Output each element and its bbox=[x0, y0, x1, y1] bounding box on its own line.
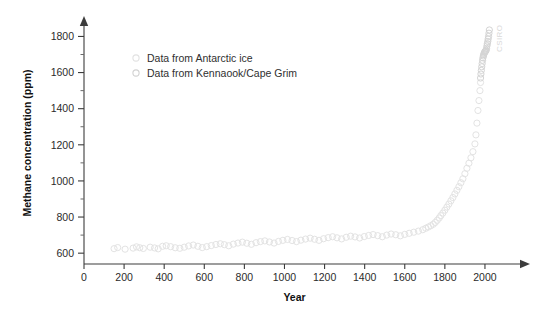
data-point bbox=[163, 243, 169, 249]
data-point bbox=[477, 88, 483, 94]
x-axis-title: Year bbox=[283, 291, 305, 303]
x-tick-label-1200: 1200 bbox=[313, 271, 337, 283]
data-point bbox=[329, 234, 335, 240]
x-tick-label-2000: 2000 bbox=[473, 271, 497, 283]
data-point bbox=[199, 244, 205, 250]
y-axis-arrowhead bbox=[80, 16, 88, 26]
data-point bbox=[366, 232, 372, 238]
data-point bbox=[177, 245, 183, 251]
legend-label-1: Data from Antarctic ice bbox=[147, 52, 253, 64]
y-tick-label-1600: 1600 bbox=[51, 66, 75, 78]
data-point bbox=[311, 236, 317, 242]
data-point bbox=[221, 242, 227, 248]
data-point bbox=[468, 155, 474, 161]
y-tick-label-1000: 1000 bbox=[51, 175, 75, 187]
x-tick-label-0: 0 bbox=[81, 271, 87, 283]
legend-marker-2 bbox=[133, 70, 139, 76]
data-point bbox=[472, 141, 478, 147]
y-tick-label-1800: 1800 bbox=[51, 30, 75, 42]
y-tick-label-800: 800 bbox=[56, 211, 74, 223]
series-cape-grim bbox=[477, 27, 492, 81]
data-point bbox=[239, 239, 245, 245]
series-antarctic-ice bbox=[111, 79, 484, 252]
data-point bbox=[454, 187, 460, 193]
x-tick-label-600: 600 bbox=[196, 271, 214, 283]
data-point bbox=[452, 191, 458, 197]
y-axis-title: Methane concentration (ppm) bbox=[21, 69, 33, 216]
x-axis-arrowhead bbox=[520, 260, 530, 268]
y-tick-label-1200: 1200 bbox=[51, 139, 75, 151]
x-tick-label-1400: 1400 bbox=[353, 271, 377, 283]
data-point bbox=[475, 107, 481, 113]
data-point bbox=[140, 245, 146, 251]
data-point bbox=[122, 246, 128, 252]
y-tick-label-1400: 1400 bbox=[51, 102, 75, 114]
csiro-watermark: CSIRO bbox=[495, 25, 504, 52]
data-point bbox=[474, 120, 480, 126]
chart-canvas: 0200400600800100012001400160018002000600… bbox=[0, 0, 537, 316]
data-point bbox=[473, 132, 479, 138]
data-point bbox=[115, 244, 121, 250]
x-tick-label-400: 400 bbox=[155, 271, 173, 283]
x-tick-label-1800: 1800 bbox=[433, 271, 457, 283]
data-point bbox=[470, 149, 476, 155]
legend-label-2: Data from Kennaook/Cape Grim bbox=[147, 67, 297, 79]
data-point bbox=[181, 244, 187, 250]
data-point bbox=[476, 97, 482, 103]
x-tick-label-1000: 1000 bbox=[273, 271, 297, 283]
x-tick-label-1600: 1600 bbox=[393, 271, 417, 283]
y-tick-label-600: 600 bbox=[56, 247, 74, 259]
legend-marker-1 bbox=[133, 55, 139, 61]
methane-concentration-chart: 0200400600800100012001400160018002000600… bbox=[0, 0, 537, 316]
x-tick-label-200: 200 bbox=[115, 271, 133, 283]
x-tick-label-800: 800 bbox=[236, 271, 254, 283]
